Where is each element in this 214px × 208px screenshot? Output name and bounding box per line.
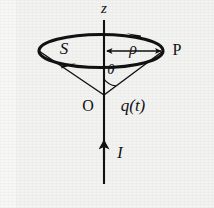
label-rho: ρ bbox=[128, 40, 137, 58]
cone-slant-left bbox=[39, 51, 104, 95]
cone-slant-lines bbox=[39, 51, 163, 95]
label-theta: θ bbox=[107, 61, 115, 77]
theta-angle-arc bbox=[104, 79, 116, 86]
physics-diagram: z S ρ P θ O q(t) I bbox=[0, 0, 214, 208]
label-z-axis: z bbox=[100, 0, 107, 16]
label-origin-o: O bbox=[82, 97, 94, 114]
label-surface-s: S bbox=[60, 39, 69, 58]
label-point-p: P bbox=[173, 41, 182, 58]
figure-canvas: z S ρ P θ O q(t) I bbox=[0, 0, 214, 208]
label-charge-qt: q(t) bbox=[121, 96, 146, 115]
label-current-i: I bbox=[116, 144, 123, 161]
